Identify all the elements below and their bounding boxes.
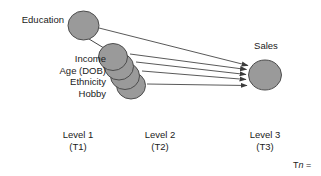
- level-1-name: Level 1: [38, 129, 118, 141]
- node-sales[interactable]: [249, 60, 282, 90]
- node-label-income: Income: [2, 53, 106, 65]
- footnote-suffix: =: [304, 160, 312, 170]
- level-caption-1: Level 1 (T1): [38, 129, 118, 152]
- node-label-sales: Sales: [240, 40, 292, 51]
- level-caption-3: Level 3 (T3): [225, 129, 305, 152]
- diagram-canvas: Education Sales Income Age (DOB) Ethnici…: [0, 0, 321, 176]
- level-3-name: Level 3: [225, 129, 305, 141]
- predictor-label-stack: Income Age (DOB) Ethnicity Hobby: [2, 53, 106, 99]
- edge-hobby-to-sales: [147, 84, 247, 86]
- footnote-formula: Tn =: [293, 160, 311, 170]
- node-label-hobby: Hobby: [2, 88, 106, 100]
- node-education[interactable]: [68, 11, 99, 40]
- node-label-age-dob: Age (DOB): [2, 65, 106, 77]
- level-caption-2: Level 2 (T2): [120, 129, 200, 152]
- level-1-time: (T1): [38, 141, 118, 153]
- level-2-name: Level 2: [120, 129, 200, 141]
- node-label-ethnicity: Ethnicity: [2, 76, 106, 88]
- level-3-time: (T3): [225, 141, 305, 153]
- level-2-time: (T2): [120, 141, 200, 153]
- edge-age-to-sales: [136, 62, 246, 75]
- edge-ethnicity-to-sales: [142, 71, 246, 80]
- node-label-education: Education: [8, 14, 64, 25]
- edge-income-to-sales: [130, 54, 247, 70]
